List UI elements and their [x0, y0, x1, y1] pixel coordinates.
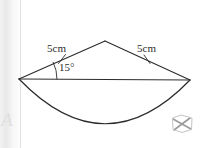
- geometry-figure: A 5cm 5cm 15°: [0, 0, 203, 148]
- chord-line: [19, 79, 190, 80]
- angle-measure-label: 15°: [59, 62, 74, 73]
- right-side-length-label: 5cm: [137, 43, 156, 54]
- arc-curve: [19, 79, 190, 124]
- sector-drawing: [0, 0, 203, 148]
- left-side-length-label: 5cm: [47, 43, 66, 54]
- angle-arc-marker: [53, 62, 57, 79]
